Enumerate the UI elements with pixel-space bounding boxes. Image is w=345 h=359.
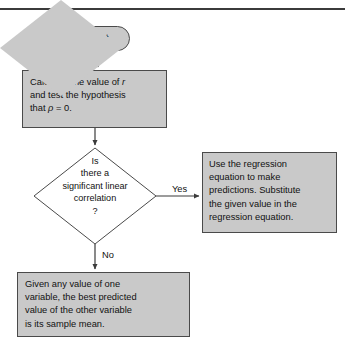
node-regression-label: Use the regression equation to make pred…	[209, 158, 333, 224]
edge-label-no: No	[102, 250, 114, 261]
node-decision-label: Is there a significant linear correlatio…	[34, 155, 156, 217]
flowchart-figure: Start Calculate the value of rand test t…	[0, 0, 345, 359]
edge-label-yes: Yes	[172, 184, 187, 195]
node-sample-mean-label: Given any value of one variable, the bes…	[25, 278, 185, 331]
